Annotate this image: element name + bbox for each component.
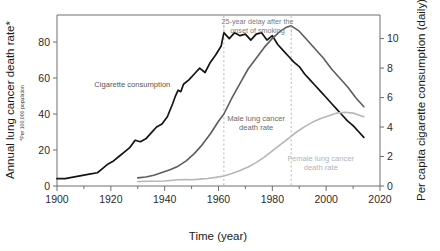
x-tick-label: 1980 xyxy=(261,193,285,205)
x-tick-label: 1920 xyxy=(99,193,123,205)
left-tick-label: 0 xyxy=(44,180,50,192)
lung-cancer-smoking-chart: 020406080 0246810 1900192019401960198020… xyxy=(0,0,440,251)
x-axis-ticks-group: 1900192019401960198020002020 xyxy=(45,186,392,205)
x-tick-label: 2020 xyxy=(368,193,392,205)
delay-annotation-text: 25-year delay after theonset of smoking xyxy=(222,17,294,35)
right-tick-label: 0 xyxy=(387,180,393,192)
left-tick-label: 40 xyxy=(38,108,50,120)
right-tick-label: 10 xyxy=(387,32,399,44)
y-axis-title-right: Per capita cigarette consumption (daily) xyxy=(415,0,427,201)
right-tick-label: 8 xyxy=(387,62,393,74)
annotations-group: 25-year delay after theonset of smoking xyxy=(222,17,294,35)
left-axis-ticks-group: 020406080 xyxy=(38,36,57,192)
left-tick-label: 80 xyxy=(38,36,50,48)
right-tick-label: 2 xyxy=(387,150,393,162)
x-tick-label: 2000 xyxy=(314,193,338,205)
y-axis-title-left: Annual lung cancer death rate* xyxy=(4,21,16,179)
left-tick-label: 20 xyxy=(38,144,50,156)
y-axis-footnote-left: *Per 100,000 population xyxy=(19,85,25,141)
series-label-cigarette-consumption: Cigarette consumption xyxy=(94,80,170,89)
x-axis-title: Time (year) xyxy=(189,230,248,242)
x-tick-label: 1900 xyxy=(45,193,69,205)
x-tick-label: 1940 xyxy=(153,193,177,205)
right-tick-label: 4 xyxy=(387,121,393,133)
left-tick-label: 60 xyxy=(38,72,50,84)
x-tick-label: 1960 xyxy=(207,193,231,205)
right-axis-ticks-group: 0246810 xyxy=(380,32,399,191)
chart-canvas: 020406080 0246810 1900192019401960198020… xyxy=(0,0,440,251)
right-tick-label: 6 xyxy=(387,91,393,103)
